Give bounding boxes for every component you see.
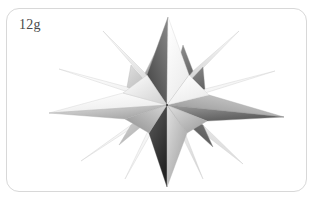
figure-label: 12g [19,18,41,32]
star-center-point [166,104,168,106]
figure-panel: 12g [6,8,307,192]
star-illustration [7,9,308,193]
star-polyhedron-svg [7,9,308,193]
star-front-spikes [49,17,284,187]
